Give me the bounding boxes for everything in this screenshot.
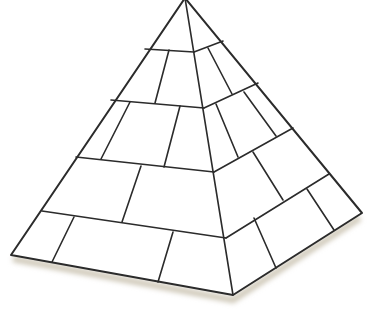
pyramid-illustration: Line drawing of a stone block pyramid xyxy=(0,0,370,325)
pyramid-drawing xyxy=(0,0,370,325)
